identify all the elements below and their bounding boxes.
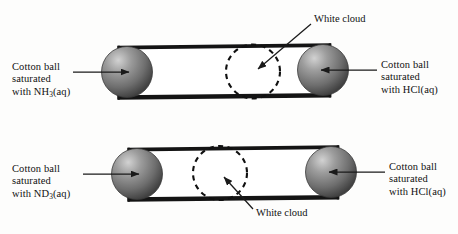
diffusion-figure: Cotton ball saturated with NH3(aq) Cotto… (0, 0, 458, 234)
right-label-hydrogen-chloride: Cotton ball saturated with HCl(aq) (381, 59, 438, 99)
right-label-line-3: with HCl(aq) (389, 186, 446, 201)
left-label-line-3: with NH3(aq) (12, 86, 70, 101)
right-label-formula-prefix: with HCl (389, 186, 429, 197)
right-label-line-2: saturated (381, 71, 438, 83)
white-cloud-label: White cloud (256, 207, 308, 219)
right-label-line-3: with HCl(aq) (381, 84, 438, 99)
left-label-formula-prefix: with NH (12, 86, 49, 97)
left-label-deuterated-ammonia: Cotton ball saturated with ND3(aq) (12, 163, 70, 203)
left-label-line-2: saturated (12, 175, 70, 187)
panel-ammonia: Cotton ball saturated with NH3(aq) Cotto… (0, 0, 458, 117)
panel-deuterated-ammonia: Cotton ball saturated with ND3(aq) Cotto… (0, 117, 458, 234)
right-label-hydrogen-chloride: Cotton ball saturated with HCl(aq) (389, 161, 446, 201)
left-label-ammonia: Cotton ball saturated with NH3(aq) (12, 61, 70, 101)
right-label-formula-suffix: (aq) (429, 186, 446, 197)
white-cloud-label: White cloud (314, 13, 366, 25)
left-label-line-1: Cotton ball (12, 61, 70, 73)
left-label-formula-prefix: with ND (12, 188, 49, 199)
right-label-formula-prefix: with HCl (381, 84, 421, 95)
left-label-line-3: with ND3(aq) (12, 188, 70, 203)
right-label-formula-suffix: (aq) (421, 84, 438, 95)
right-label-line-1: Cotton ball (389, 161, 446, 173)
right-label-line-1: Cotton ball (381, 59, 438, 71)
left-label-line-2: saturated (12, 73, 70, 85)
left-label-formula-suffix: (aq) (53, 86, 70, 97)
right-label-line-2: saturated (389, 173, 446, 185)
left-label-line-1: Cotton ball (12, 163, 70, 175)
left-label-formula-suffix: (aq) (53, 188, 70, 199)
